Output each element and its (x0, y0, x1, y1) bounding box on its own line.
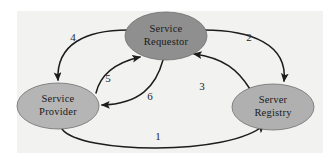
service-requestor-label-line2: Requestor (144, 36, 189, 47)
edge-2-requestor-to-registry: 2 (204, 30, 284, 81)
node-service-provider[interactable]: Service Provider (17, 83, 99, 129)
server-registry-label-line2: Registry (254, 107, 292, 118)
edge-1-path (62, 125, 264, 148)
edge-1-provider-to-registry: 1 (62, 125, 264, 148)
node-server-registry[interactable]: Server Registry (232, 84, 314, 130)
edge-2-label: 2 (246, 31, 252, 43)
service-provider-label-line2: Provider (39, 106, 77, 117)
edge-6-requestor-to-provider: 6 (102, 60, 163, 105)
edge-4-label: 4 (70, 31, 76, 43)
edge-4-path (58, 30, 128, 80)
edge-6-label: 6 (147, 90, 153, 102)
server-registry-label-line1: Server (259, 94, 288, 105)
service-requestor-label-line1: Service (150, 23, 183, 34)
edge-4-requestor-to-provider: 4 (58, 30, 128, 80)
architecture-diagram: 1 2 3 4 5 6 Service (0, 0, 333, 164)
edge-6-path (102, 60, 163, 105)
edge-5-provider-to-requestor: 5 (96, 57, 140, 93)
edge-2-path (204, 30, 284, 81)
edge-5-path (96, 57, 140, 93)
service-provider-label-line1: Service (42, 93, 75, 104)
edge-1-label: 1 (155, 130, 161, 142)
edge-3-registry-to-requestor: 3 (194, 54, 250, 92)
edge-5-label: 5 (105, 72, 111, 84)
edge-3-label: 3 (199, 80, 205, 92)
diagram-root: 1 2 3 4 5 6 Service (0, 0, 333, 164)
node-service-requestor[interactable]: Service Requestor (125, 12, 207, 60)
